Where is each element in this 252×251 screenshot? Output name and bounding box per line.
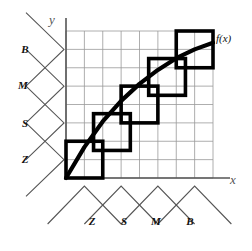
output-membership-triangle-S xyxy=(26,86,64,160)
output-membership-triangle-Z xyxy=(26,123,64,197)
x-axis-label: x xyxy=(229,172,236,187)
function-label: f(x) xyxy=(216,32,232,45)
input-set-label-B: B xyxy=(185,215,193,227)
output-set-label-M: M xyxy=(17,79,29,91)
input-membership-triangle-B xyxy=(158,186,232,224)
input-set-label-S: S xyxy=(121,215,127,227)
output-set-label-B: B xyxy=(20,43,28,55)
output-set-label-Z: Z xyxy=(21,153,29,165)
patch-S-S xyxy=(94,114,131,151)
output-membership-triangle-B xyxy=(26,13,64,87)
y-axis-label: y xyxy=(47,12,55,27)
figure-canvas: yxf(x)ZSMBZSMB xyxy=(0,0,252,251)
input-set-label-M: M xyxy=(150,215,162,227)
input-membership-triangle-Z xyxy=(48,186,122,224)
input-membership-functions xyxy=(48,186,232,224)
fuzzy-patch-figure: yxf(x)ZSMBZSMB xyxy=(0,0,252,251)
plot-axes xyxy=(66,18,230,178)
output-set-label-S: S xyxy=(22,117,28,129)
output-membership-triangle-M xyxy=(26,49,64,123)
input-set-label-Z: Z xyxy=(88,215,96,227)
output-membership-functions xyxy=(26,13,64,197)
